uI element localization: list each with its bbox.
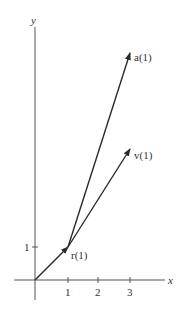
x-axis-label: x — [167, 274, 173, 286]
x-tick-label-3: 3 — [127, 286, 133, 298]
x-tick-label-1: 1 — [65, 286, 71, 298]
x-tick-label-2: 2 — [95, 286, 101, 298]
vector-diagram: 1 2 3 1 x y r(1) v(1) a(1) — [0, 0, 182, 315]
vector-r — [35, 247, 68, 280]
y-axis-label: y — [30, 14, 36, 26]
vector-a — [68, 53, 130, 247]
label-r: r(1) — [71, 249, 88, 262]
label-a: a(1) — [134, 51, 152, 64]
label-v: v(1) — [134, 149, 153, 162]
vector-v — [68, 149, 130, 247]
y-tick-label-1: 1 — [24, 241, 30, 253]
